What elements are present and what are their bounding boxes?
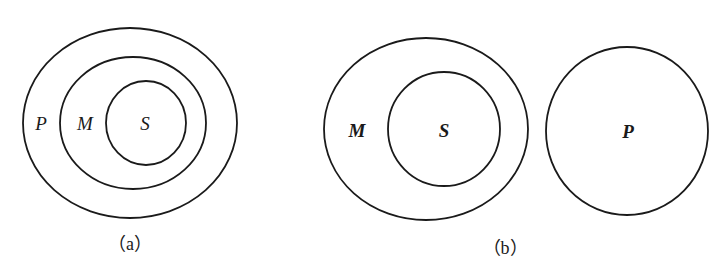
caption-b: （b）	[483, 238, 528, 258]
diagram-a: P M S （a）	[23, 28, 237, 254]
set-m-label: M	[348, 120, 367, 141]
diagram-canvas: P M S （a） M S P （b）	[0, 0, 725, 279]
set-s-label: S	[140, 113, 150, 134]
set-p-label: P	[621, 121, 634, 142]
set-p-label: P	[34, 113, 47, 134]
diagram-b: M S P （b）	[324, 38, 708, 258]
set-m-label: M	[76, 113, 94, 134]
set-s-label: S	[439, 120, 450, 141]
caption-a: （a）	[108, 234, 152, 254]
